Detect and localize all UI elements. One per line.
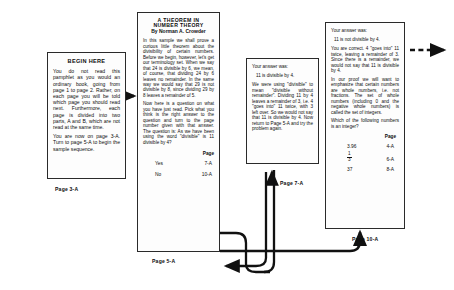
integer-page-whole: 8-A xyxy=(386,167,399,173)
yes-branch-statement: 11 is divisible by 4. xyxy=(256,73,313,79)
fraction-one-third: 1 3 xyxy=(347,152,352,163)
integer-value-fraction: 1 3 xyxy=(331,152,352,163)
panel-page-7a: Your answer was: 11 is divisible by 4. W… xyxy=(246,58,319,164)
answer-page-yes: 7-A xyxy=(204,161,214,166)
theorem-byline: By Norman A. Crowder xyxy=(143,29,214,34)
integer-row-whole[interactable]: 37 8-A xyxy=(331,167,399,173)
caption-page-7a: Page 7-A xyxy=(280,180,303,186)
integer-row-decimal[interactable]: 3.96 6-A 4-A xyxy=(331,144,399,150)
caption-page-3a: Page 3-A xyxy=(55,186,78,192)
no-branch-paragraph-2: In our proof we will want to emphasize t… xyxy=(331,77,399,116)
yes-branch-body: We were using "divisible" to mean "divis… xyxy=(252,82,313,132)
fraction-denominator: 3 xyxy=(347,157,352,163)
integer-value-whole: 37 xyxy=(331,167,352,173)
panel-page-10a: Your answer was: 11 is not divisible by … xyxy=(325,22,405,229)
caption-page-10a: Page 10-A xyxy=(352,236,378,242)
theorem-paragraph-1: In this sample we shall prove a curious … xyxy=(143,38,214,98)
integer-value-decimal: 3.96 xyxy=(331,144,357,150)
answer-row-no[interactable]: No 10-A xyxy=(143,172,214,177)
diagram-canvas: BEGIN HERE You do not read this pamphlet… xyxy=(0,0,454,290)
answer-option-yes: Yes xyxy=(143,161,163,166)
caption-page-5a: Page 5-A xyxy=(152,258,175,264)
answer-page-no: 10-A xyxy=(202,172,214,177)
panel-begin-paragraph-2: You are now on page 3-A. Turn to page 5-… xyxy=(53,133,120,152)
integer-table-header: Page xyxy=(331,134,399,140)
answer-table-header: Page xyxy=(143,151,214,156)
no-branch-question: Which of the following numbers is an int… xyxy=(331,118,399,129)
panel-begin-paragraph-1: You do not read this pamphlet as you wou… xyxy=(53,68,120,130)
theorem-paragraph-2: Now here is a question on what you have … xyxy=(143,101,214,145)
panel-theorem: A THEOREM IN NUMBER THEORY By Norman A. … xyxy=(137,12,220,252)
no-branch-paragraph-1: You are correct. 4 "goes into" 11 twice,… xyxy=(331,46,399,74)
integer-row-fraction[interactable]: 1 3 6-A xyxy=(331,152,399,163)
no-branch-lead: Your answer was: xyxy=(331,28,399,34)
answer-option-no: No xyxy=(143,172,161,177)
integer-page-decimal-real: 4-A xyxy=(386,144,399,150)
panel-begin-here: BEGIN HERE You do not read this pamphlet… xyxy=(47,52,126,179)
answer-row-yes[interactable]: Yes 7-A xyxy=(143,161,214,166)
no-branch-statement: 11 is not divisible by 4. xyxy=(334,37,399,43)
integer-page-fraction: 6-A xyxy=(386,157,399,163)
yes-branch-lead: Your answer was: xyxy=(252,64,313,70)
panel-begin-heading: BEGIN HERE xyxy=(53,58,120,64)
